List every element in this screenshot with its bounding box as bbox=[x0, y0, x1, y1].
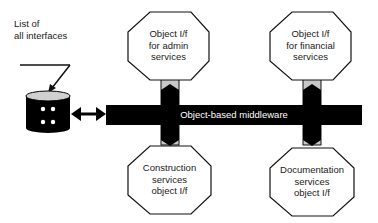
node-documentation-line-2: services bbox=[270, 176, 354, 188]
double-arrow-icon bbox=[71, 107, 106, 121]
node-admin-label: Object I/f for admin services bbox=[128, 28, 209, 63]
node-documentation-line-3: object I/f bbox=[270, 187, 354, 199]
annotation-line-1: List of bbox=[14, 18, 67, 30]
node-construction-line-3: object I/f bbox=[128, 185, 211, 197]
node-admin-line-2: for admin bbox=[128, 40, 209, 52]
annotation-label: List of all interfaces bbox=[14, 18, 67, 42]
node-financial-line-3: services bbox=[270, 51, 351, 63]
node-documentation-line-1: Documentation bbox=[270, 164, 354, 176]
annotation-line-2: all interfaces bbox=[14, 30, 67, 42]
node-admin-line-3: services bbox=[128, 51, 209, 63]
annotation-pointer bbox=[20, 65, 70, 93]
node-construction-line-1: Construction bbox=[128, 162, 211, 174]
node-financial-line-1: Object I/f bbox=[270, 28, 351, 40]
node-admin-line-1: Object I/f bbox=[128, 28, 209, 40]
middleware-label: Object-based middleware bbox=[106, 106, 362, 124]
node-financial-label: Object I/f for financial services bbox=[270, 28, 351, 63]
node-construction-line-2: services bbox=[128, 174, 211, 186]
node-construction-label: Construction services object I/f bbox=[128, 162, 211, 197]
node-financial-line-2: for financial bbox=[270, 40, 351, 52]
node-documentation-label: Documentation services object I/f bbox=[270, 164, 354, 199]
database-icon bbox=[26, 91, 70, 133]
